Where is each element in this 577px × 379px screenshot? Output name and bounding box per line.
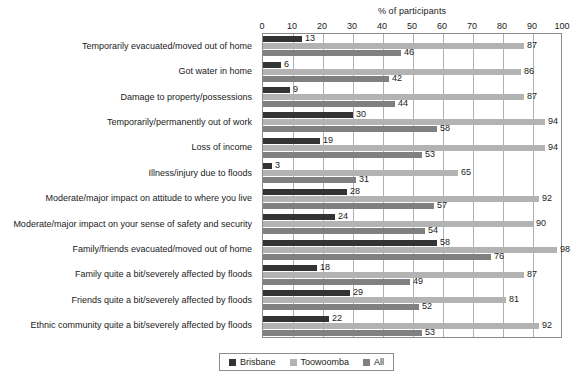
bar-all [263,279,410,285]
x-tick-label: 20 [317,21,327,31]
bar-slot: 31 [263,177,561,183]
category-label: Family/friends evacuated/moved out of ho… [72,244,252,254]
bar-slot: 9 [263,87,561,93]
bar-slot: 42 [263,76,561,82]
legend-swatch-icon [229,359,236,366]
category-label: Damage to property/possessions [120,92,252,102]
bar-slot: 94 [263,119,561,125]
x-tick-label: 40 [377,21,387,31]
bar-slot: 92 [263,323,561,329]
legend-swatch-icon [290,359,297,366]
bar-slot: 87 [263,94,561,100]
legend-item-toowoomba: Toowoomba [290,357,350,367]
bar-toowoomba [263,145,545,151]
category-label: Family quite a bit/severely affected by … [75,269,252,279]
bar-brisbane [263,87,290,93]
chart-legend: BrisbaneToowoombaAll [219,353,394,371]
bar-value-label: 52 [422,301,432,312]
bar-slot: 53 [263,330,561,336]
bar-group: 229253 [263,316,561,337]
bar-toowoomba [263,247,557,253]
bar-slot: 49 [263,279,561,285]
x-tick-label: 60 [437,21,447,31]
x-tick-label: 70 [467,21,477,31]
bar-value-label: 31 [359,174,369,185]
bar-slot: 54 [263,228,561,234]
category-label: Moderate/major impact on attitude to whe… [45,193,252,203]
category-label: Ethnic community quite a bit/severely af… [31,320,252,330]
category-label: Loss of income [191,142,252,152]
bar-group: 298152 [263,290,561,311]
x-tick-label: 0 [259,21,264,31]
legend-label: All [374,357,384,367]
category-label: Illness/injury due to floods [148,168,252,178]
bar-value-label: 46 [404,47,414,58]
bar-slot: 13 [263,36,561,42]
bar-slot: 98 [263,247,561,253]
x-tick-label: 10 [287,21,297,31]
bar-value-label: 57 [437,200,447,211]
bar-value-label: 54 [428,225,438,236]
plot-area: 1387466864298744309458199453365312892572… [262,33,562,338]
bar-all [263,254,491,260]
bar-group: 138746 [263,36,561,57]
category-label: Friends quite a bit/severely affected by… [72,295,252,305]
bar-brisbane [263,316,329,322]
bar-brisbane [263,290,350,296]
bar-brisbane [263,62,281,68]
bar-group: 98744 [263,87,561,108]
bar-slot: 28 [263,189,561,195]
bar-all [263,101,395,107]
legend-item-brisbane: Brisbane [229,357,276,367]
bar-toowoomba [263,323,539,329]
bar-value-label: 49 [413,276,423,287]
bar-toowoomba [263,94,524,100]
x-tick-label: 30 [347,21,357,31]
bar-value-label: 53 [425,327,435,338]
category-label: Temporarily/permanently out of work [107,117,252,127]
bar-all [263,152,422,158]
bar-value-label: 44 [398,98,408,109]
x-tick-label: 100 [554,21,569,31]
bar-group: 68642 [263,62,561,83]
x-tick-label: 80 [497,21,507,31]
bar-all [263,50,401,56]
bar-slot: 18 [263,265,561,271]
category-label: Temporarily evacuated/moved out of home [82,41,252,51]
x-tick-label: 90 [527,21,537,31]
legend-label: Toowoomba [301,357,350,367]
bar-slot: 58 [263,240,561,246]
bar-chart: % of participants 0102030405060708090100… [0,0,577,379]
bar-group: 199453 [263,138,561,159]
bar-brisbane [263,163,272,169]
bar-slot: 24 [263,214,561,220]
bar-toowoomba [263,272,524,278]
bar-group: 589876 [263,240,561,261]
bar-slot: 30 [263,112,561,118]
bar-toowoomba [263,297,506,303]
bar-slot: 6 [263,62,561,68]
legend-label: Brisbane [240,357,276,367]
bar-value-label: 58 [440,123,450,134]
x-axis-tick-labels: 0102030405060708090100 [262,21,562,33]
bar-slot: 87 [263,272,561,278]
bar-slot: 46 [263,50,561,56]
bar-value-label: 53 [425,149,435,160]
bar-all [263,203,434,209]
bar-toowoomba [263,196,539,202]
bar-slot: 65 [263,170,561,176]
bar-slot: 57 [263,203,561,209]
bar-brisbane [263,36,302,42]
bar-brisbane [263,265,317,271]
bar-all [263,177,356,183]
bar-group: 249054 [263,214,561,235]
bar-group: 309458 [263,112,561,133]
category-label: Moderate/major impact on your sense of s… [13,219,252,229]
bar-slot: 94 [263,145,561,151]
bar-slot: 76 [263,254,561,260]
category-label: Got water in home [178,66,252,76]
bar-all [263,304,419,310]
bar-brisbane [263,189,347,195]
bar-slot: 92 [263,196,561,202]
bar-brisbane [263,138,320,144]
